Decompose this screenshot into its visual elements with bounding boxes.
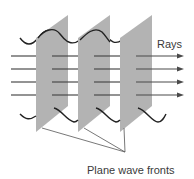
rays-left [11,56,36,95]
ray-arrowheads [177,54,184,98]
wave-diagram [0,0,194,179]
bottom-wave [20,114,36,119]
wave-fronts-label: Plane wave fronts [87,165,174,176]
leader-lines [42,128,125,152]
rays-label: Rays [157,39,182,50]
